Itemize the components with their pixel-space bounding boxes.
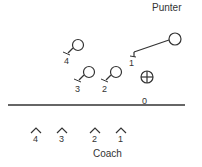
defender-3-chevron-icon xyxy=(57,128,67,133)
punter-label: Punter xyxy=(152,2,182,13)
player-4-number: 4 xyxy=(64,56,69,66)
player-3-circle-icon xyxy=(84,67,95,78)
defender-1-chevron-icon xyxy=(116,128,126,133)
player-4-circle-icon xyxy=(73,40,84,51)
defender-2-number: 2 xyxy=(92,134,97,144)
defender-2-chevron-icon xyxy=(90,128,100,133)
defender-3: 3 xyxy=(57,128,67,144)
defender-3-number: 3 xyxy=(59,134,64,144)
player-2-number: 2 xyxy=(102,84,107,94)
player-1-route-line xyxy=(134,40,169,52)
player-1-foot-mark xyxy=(130,56,136,57)
punter-circle-icon xyxy=(169,33,181,45)
player-1-number: 1 xyxy=(129,58,134,68)
player-3: 3 xyxy=(74,67,95,95)
snapper-crossed-circle-icon xyxy=(141,71,153,83)
coach-label: Coach xyxy=(93,148,122,159)
player-4-stance-mark xyxy=(68,48,73,53)
defender-4: 4 xyxy=(31,128,41,144)
defender-4-chevron-icon xyxy=(31,128,41,133)
defender-1: 1 xyxy=(116,128,126,144)
player-1: 1 xyxy=(129,40,169,68)
player-2-circle-icon xyxy=(111,67,122,78)
defender-2: 2 xyxy=(90,128,100,144)
punt-formation-diagram: Punter 1 4 3 2 0 xyxy=(0,0,202,167)
player-2-stance-mark xyxy=(106,75,111,80)
player-3-stance-mark xyxy=(79,75,84,80)
defender-1-number: 1 xyxy=(118,134,123,144)
ball-marker: 0 xyxy=(142,96,147,106)
player-4: 4 xyxy=(63,40,84,67)
player-3-number: 3 xyxy=(75,84,80,94)
player-2: 2 xyxy=(101,67,122,95)
punter-player xyxy=(169,33,181,45)
defender-4-number: 4 xyxy=(33,134,38,144)
